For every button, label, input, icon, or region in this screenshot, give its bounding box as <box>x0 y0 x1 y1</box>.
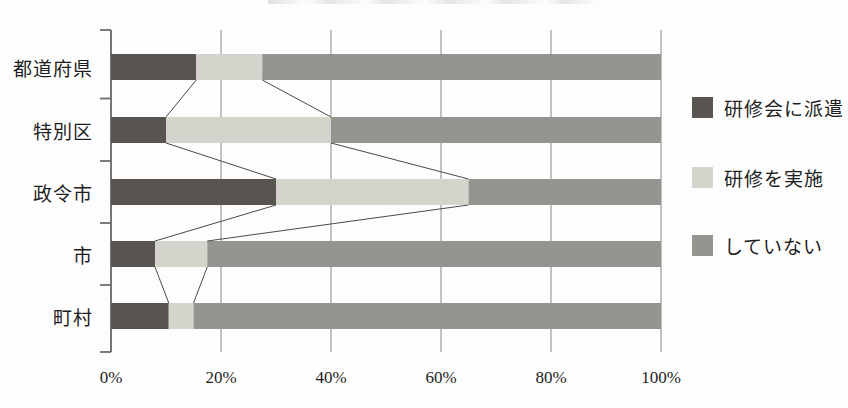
bar-segment <box>469 179 662 205</box>
legend-label: していない <box>724 232 823 259</box>
bar-segment <box>196 54 262 80</box>
bar-segment <box>166 117 331 143</box>
category-label-1: 都道府県 <box>0 54 93 81</box>
legend-swatch-icon <box>692 167 713 188</box>
connector-line <box>331 143 469 179</box>
tick-label-100pct: 100% <box>621 368 701 388</box>
tick-label-40pct: 40% <box>291 368 371 388</box>
tick-label-20pct: 20% <box>181 368 261 388</box>
connector-line <box>194 267 208 303</box>
bar-segment <box>111 303 169 329</box>
stacked-bar-plot-area <box>0 0 848 408</box>
chart-figure: 都道府県特別区政令市市町村 0%20%40%60%80%100% 研修会に派遣研… <box>0 0 848 408</box>
bar-segment <box>111 241 155 267</box>
connector-line <box>155 267 169 303</box>
bar-segment <box>169 303 194 329</box>
tick-label-80pct: 80% <box>511 368 591 388</box>
bar-series-group <box>111 54 661 329</box>
bar-segment <box>194 303 662 329</box>
connector-line <box>262 80 331 117</box>
bar-segment <box>207 241 661 267</box>
category-label-2: 特別区 <box>0 117 93 144</box>
bar-segment <box>276 179 469 205</box>
legend-item-1[interactable]: 研修会に派遣 <box>692 94 844 121</box>
legend-label: 研修会に派遣 <box>724 94 844 121</box>
connector-line <box>207 205 468 241</box>
tick-label-0pct: 0% <box>71 368 151 388</box>
legend-item-2[interactable]: 研修を実施 <box>692 164 824 191</box>
legend-label: 研修を実施 <box>724 164 824 191</box>
category-label-3: 政令市 <box>0 179 93 206</box>
tick-label-60pct: 60% <box>401 368 481 388</box>
legend-swatch-icon <box>692 235 713 256</box>
bar-segment <box>111 179 276 205</box>
connector-line <box>155 205 276 241</box>
axis-lines <box>100 30 111 352</box>
bar-segment <box>111 117 166 143</box>
bar-segment <box>155 241 207 267</box>
connector-line <box>166 80 196 117</box>
bar-segment <box>111 54 196 80</box>
category-label-4: 市 <box>0 241 93 268</box>
legend-item-3[interactable]: していない <box>692 232 823 259</box>
legend-swatch-icon <box>692 97 713 118</box>
category-label-5: 町村 <box>0 303 93 330</box>
bar-segment <box>331 117 661 143</box>
bar-segment <box>262 54 661 80</box>
